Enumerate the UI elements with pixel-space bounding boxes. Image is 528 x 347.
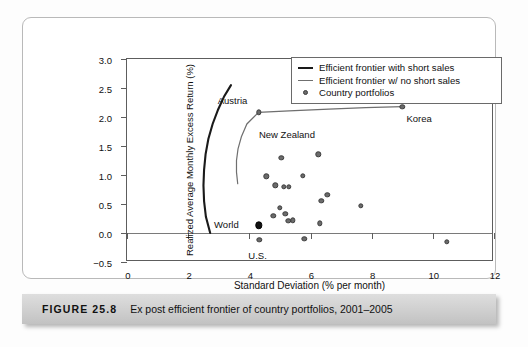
y-axis-tick-label: 1.5 [99,142,112,153]
frontier-line [203,85,231,233]
legend-thick-line-icon [298,67,313,69]
legend-entry: Efficient frontier w/ no short sales [298,74,495,86]
point-label: World [214,219,239,230]
figure-number-label: FIGURE 25.8 [42,303,117,315]
y-axis-tick: −0.5 [121,262,127,263]
figure-frame: −0.50.00.51.01.52.02.53.0 024681012 Aust… [22,17,496,279]
y-axis-tick-label: 2.0 [99,113,112,124]
y-axis-tick-label: 0.0 [99,229,112,240]
point-label: Korea [406,113,431,124]
y-axis-tick-label: 3.0 [99,55,112,66]
point-label: Austria [218,94,248,105]
figure-caption-bar: FIGURE 25.8 Ex post efficient frontier o… [22,294,496,324]
y-axis-tick-label: 2.5 [99,84,112,95]
figure-page: −0.50.00.51.01.52.02.53.0 024681012 Aust… [0,0,528,347]
x-axis-tick: 12 [494,233,495,239]
legend-dot-icon [303,90,308,95]
legend-swatch [298,90,313,95]
y-axis-tick-label: 1.0 [99,171,112,182]
legend-label: Efficient frontier w/ no short sales [319,75,460,86]
frontier-line [236,107,402,184]
y-axis-tick-label: 0.5 [99,200,112,211]
legend-entry: Country portfolios [298,87,495,99]
y-axis-tick-label: −0.5 [93,258,112,269]
point-label: U.S. [248,250,266,261]
legend-entry: Efficient frontier with short sales [298,62,495,74]
legend-swatch [298,80,313,81]
legend-label: Efficient frontier with short sales [319,62,454,73]
chart-legend: Efficient frontier with short salesEffic… [291,57,502,104]
x-axis-title: Standard Deviation (% per month) [126,280,493,291]
plot-area: −0.50.00.51.01.52.02.53.0 024681012 Aust… [126,58,493,261]
legend-swatch [298,67,313,69]
figure-caption-text: Ex post efficient frontier of country po… [130,303,392,315]
legend-label: Country portfolios [319,87,394,98]
point-label: New Zealand [259,129,315,140]
legend-thin-line-icon [298,80,313,81]
y-axis-title: Realized Average Monthly Excess Return (… [184,63,195,255]
